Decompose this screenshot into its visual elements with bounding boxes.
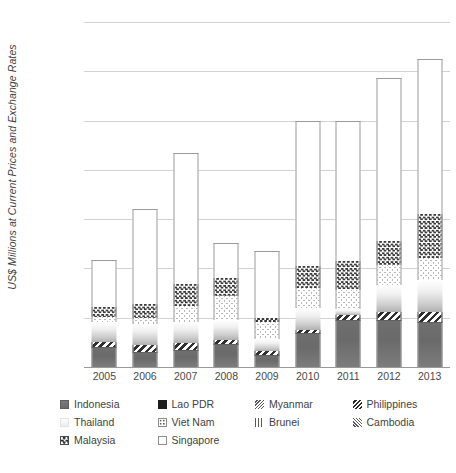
bar-slot [369, 22, 410, 367]
plot-area: 020,00040,00060,00080,0001,00,0001,20,00… [84, 22, 450, 367]
bar-segment [417, 59, 442, 214]
bar-segment [92, 260, 117, 308]
bar-group [84, 22, 450, 367]
legend-swatch-icon [158, 418, 167, 427]
bar-segment [92, 307, 117, 317]
stacked-bar[interactable] [92, 260, 117, 367]
bar-segment [376, 265, 401, 286]
bar-segment [417, 258, 442, 280]
x-axis-labels: 200520062007200820092010201120122013 [84, 370, 450, 388]
bar-segment [92, 347, 117, 367]
legend-item-brunei[interactable]: Brunei [255, 416, 353, 428]
bar-segment [295, 333, 320, 367]
legend-label: Lao PDR [172, 398, 215, 410]
bar-segment [254, 339, 279, 351]
bar-segment [417, 280, 442, 312]
bar-segment [254, 322, 279, 339]
legend-label: Cambodia [367, 416, 415, 428]
bar-segment [214, 296, 239, 320]
legend-swatch-icon [158, 436, 167, 445]
bar-slot [206, 22, 247, 367]
bar-segment [376, 312, 401, 320]
bar-segment [336, 290, 361, 308]
gridline [84, 367, 450, 368]
bar-segment [336, 121, 361, 261]
legend-item-thailand[interactable]: Thailand [60, 416, 158, 428]
stacked-bar[interactable] [336, 121, 361, 367]
bar-segment [295, 121, 320, 266]
bar-segment [132, 324, 157, 344]
legend-item-philippines[interactable]: Philippines [353, 398, 451, 410]
legend-item-cambodia[interactable]: Cambodia [353, 416, 451, 428]
legend-swatch-icon [60, 436, 69, 445]
bar-segment [295, 266, 320, 288]
legend-swatch-icon [255, 400, 264, 409]
legend-label: Indonesia [74, 398, 120, 410]
bar-segment [173, 306, 198, 323]
stacked-bar[interactable] [254, 251, 279, 367]
legend-label: Philippines [367, 398, 418, 410]
bar-segment [132, 345, 157, 352]
bar-segment [173, 343, 198, 350]
bar-slot [84, 22, 125, 367]
y-axis-title: US$ Millions at Current Prices and Excha… [2, 2, 22, 332]
legend-item-singapore[interactable]: Singapore [158, 434, 256, 446]
bar-slot [247, 22, 288, 367]
legend-item-indonesia[interactable]: Indonesia [60, 398, 158, 410]
bar-segment [173, 284, 198, 306]
bar-segment [132, 304, 157, 319]
legend-label: Viet Nam [172, 416, 215, 428]
legend-item-myanmar[interactable]: Myanmar [255, 398, 353, 410]
legend-label: Singapore [172, 434, 220, 446]
bar-segment [417, 214, 442, 258]
stacked-bar[interactable] [173, 153, 198, 367]
bar-segment [336, 320, 361, 367]
legend-label: Malaysia [74, 434, 115, 446]
bar-segment [376, 320, 401, 367]
legend-item-viet-nam[interactable]: Viet Nam [158, 416, 256, 428]
bar-segment [376, 241, 401, 264]
legend-label: Brunei [269, 416, 299, 428]
bar-segment [376, 78, 401, 242]
bar-segment [295, 308, 320, 330]
bar-segment [132, 352, 157, 367]
legend-swatch-icon [158, 400, 167, 409]
stacked-bar[interactable] [132, 209, 157, 367]
legend-swatch-icon [353, 400, 362, 409]
legend-swatch-icon [255, 418, 264, 427]
bar-segment [295, 288, 320, 308]
bar-segment [214, 320, 239, 341]
bar-segment [173, 322, 198, 343]
legend-swatch-icon [60, 418, 69, 427]
bar-segment [92, 322, 117, 342]
legend-swatch-icon [60, 400, 69, 409]
bar-segment [214, 278, 239, 296]
legend-swatch-icon [353, 418, 362, 427]
bar-segment [417, 312, 442, 322]
bar-segment [417, 322, 442, 367]
legend-label: Myanmar [269, 398, 313, 410]
legend-label: Thailand [74, 416, 114, 428]
bar-slot [328, 22, 369, 367]
bar-segment [173, 153, 198, 284]
stacked-bar[interactable] [214, 243, 239, 367]
bar-slot [409, 22, 450, 367]
legend-item-lao-pdr[interactable]: Lao PDR [158, 398, 256, 410]
bar-segment [214, 243, 239, 278]
bar-slot [165, 22, 206, 367]
stacked-bar[interactable] [295, 121, 320, 367]
bar-segment [173, 350, 198, 367]
stacked-bar[interactable] [417, 59, 442, 367]
bar-segment [254, 355, 279, 367]
stacked-bar[interactable] [376, 78, 401, 367]
bar-segment [336, 261, 361, 291]
bar-segment [214, 344, 239, 367]
legend-item-malaysia[interactable]: Malaysia [60, 434, 158, 446]
bar-segment [254, 251, 279, 318]
bar-segment [132, 209, 157, 304]
bar-slot [125, 22, 166, 367]
x-axis-tick-label: 2013 [404, 370, 456, 382]
bar-segment [376, 285, 401, 311]
chart-legend: IndonesiaLao PDRMyanmarPhilippinesThaila… [60, 398, 450, 446]
bar-slot [287, 22, 328, 367]
